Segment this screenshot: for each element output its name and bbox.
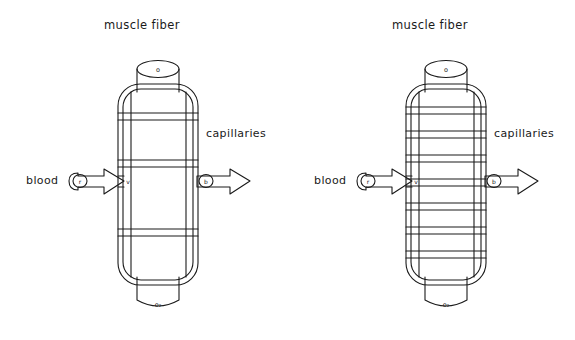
blood-inlet-arrow: [357, 169, 412, 194]
junction-marker: v: [414, 178, 418, 185]
left-panel: muscle fiber capillaries blood: [0, 0, 287, 340]
outlet-marker: b: [204, 178, 208, 185]
right-panel: muscle fiber capillaries blood: [288, 0, 575, 340]
inlet-marker: r: [79, 178, 82, 185]
blood-inlet-arrow: [69, 169, 124, 194]
bottom-cap-marker: o₂: [155, 301, 162, 309]
top-cap-marker: o: [444, 66, 448, 74]
left-fiber-drawing: o o₂ r b v: [0, 0, 287, 340]
junction-marker: v: [126, 178, 130, 185]
inlet-marker: r: [367, 178, 370, 185]
bottom-cap-marker: o₂: [443, 301, 450, 309]
figure-canvas: muscle fiber capillaries blood: [0, 0, 575, 340]
outlet-marker: b: [492, 178, 496, 185]
fiber-inner-outline: [123, 89, 193, 280]
right-fiber-drawing: o o₂ r b v: [288, 0, 575, 340]
top-cap-marker: o: [156, 66, 160, 74]
